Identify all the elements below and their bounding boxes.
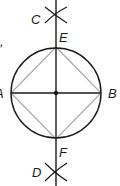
construction-diagram: C E A B F D , [0, 0, 120, 186]
text-fragment: , [0, 34, 4, 49]
center-point [54, 91, 58, 95]
label-c: C [31, 12, 41, 27]
label-b: B [108, 86, 117, 101]
label-a: A [0, 86, 4, 101]
label-e: E [59, 30, 68, 45]
label-f: F [59, 145, 68, 160]
label-d: D [32, 165, 41, 180]
